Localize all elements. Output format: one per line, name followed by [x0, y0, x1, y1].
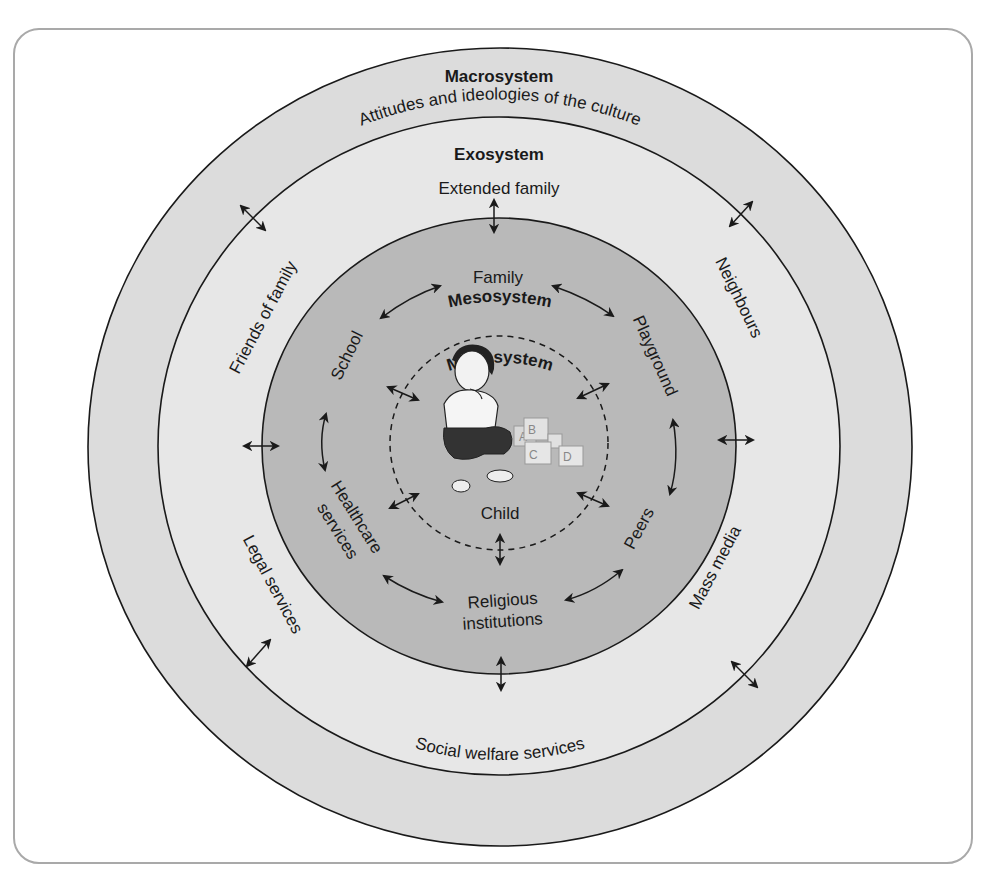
label-extended-family: Extended family — [439, 179, 560, 198]
ecological-systems-diagram: Macrosystem Attitudes and ideologies of … — [0, 0, 987, 877]
macrosystem-title: Macrosystem — [445, 67, 554, 86]
label-family: Family — [473, 268, 524, 287]
block-b-letter: B — [528, 423, 536, 437]
block-c-letter: C — [529, 448, 538, 462]
label-child: Child — [481, 504, 520, 523]
exosystem-title: Exosystem — [454, 145, 544, 164]
block-d-letter: D — [563, 450, 572, 464]
